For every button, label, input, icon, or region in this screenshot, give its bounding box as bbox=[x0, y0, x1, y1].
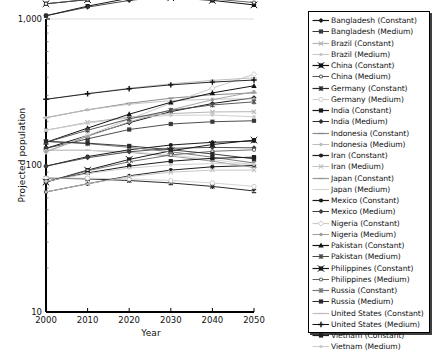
legend-item[interactable]: Japan (Constant) bbox=[311, 173, 427, 184]
legend-item[interactable]: Nigeria (Constant) bbox=[311, 218, 427, 229]
plot-area: Projected population Year 101001,0002000… bbox=[0, 0, 270, 344]
data-series bbox=[43, 145, 256, 169]
legend-marker-icon bbox=[311, 49, 331, 60]
legend-item[interactable]: Brazil (Constant) bbox=[311, 38, 427, 49]
data-series bbox=[43, 77, 256, 102]
x-tick-label: 2050 bbox=[234, 315, 274, 325]
x-tick-label: 2010 bbox=[68, 315, 108, 325]
legend-label: United States (Medium) bbox=[331, 319, 420, 330]
x-tick-label: 2020 bbox=[109, 315, 149, 325]
data-series bbox=[44, 0, 256, 18]
legend-item[interactable]: Nigeria (Medium) bbox=[311, 229, 427, 240]
legend-item[interactable]: Iran (Medium) bbox=[311, 161, 427, 172]
legend-item[interactable]: United States (Constant) bbox=[311, 308, 427, 319]
legend-marker-icon bbox=[311, 71, 331, 82]
legend-label: Russia (Constant) bbox=[331, 285, 397, 296]
legend-item[interactable]: Philippines (Medium) bbox=[311, 274, 427, 285]
legend-marker-icon bbox=[311, 38, 331, 49]
legend-label: Indonesia (Constant) bbox=[331, 128, 409, 139]
legend-label: India (Constant) bbox=[331, 105, 391, 116]
legend-marker-icon bbox=[311, 83, 331, 94]
legend-marker-icon bbox=[311, 285, 331, 296]
legend-label: Germany (Constant) bbox=[331, 83, 407, 94]
legend-item[interactable]: Japan (Medium) bbox=[311, 184, 427, 195]
legend-item[interactable]: Bangladesh (Medium) bbox=[311, 26, 427, 37]
legend-label: Russia (Medium) bbox=[331, 296, 393, 307]
legend-item[interactable]: India (Constant) bbox=[311, 105, 427, 116]
y-axis-title: Projected population bbox=[17, 95, 27, 215]
data-series bbox=[43, 93, 256, 118]
legend-marker-icon bbox=[311, 60, 331, 71]
legend-marker-icon bbox=[311, 308, 331, 319]
legend-marker-icon bbox=[311, 161, 331, 172]
legend-label: Iran (Medium) bbox=[331, 161, 384, 172]
legend-item[interactable]: Brazil (Medium) bbox=[311, 49, 427, 60]
legend-item[interactable]: China (Medium) bbox=[311, 71, 427, 82]
legend-item[interactable]: Mexico (Medium) bbox=[311, 206, 427, 217]
legend-item[interactable]: Bangladesh (Constant) bbox=[311, 15, 427, 26]
legend-marker-icon bbox=[311, 128, 331, 139]
data-series bbox=[44, 0, 256, 6]
legend-item[interactable]: Indonesia (Constant) bbox=[311, 128, 427, 139]
legend-item[interactable]: India (Medium) bbox=[311, 116, 427, 127]
legend-label: Iran (Constant) bbox=[331, 150, 388, 161]
legend-marker-icon bbox=[311, 195, 331, 206]
legend-marker-icon bbox=[311, 296, 331, 307]
data-series bbox=[43, 78, 256, 100]
x-axis-title: Year bbox=[46, 328, 256, 338]
legend-label: Vietnam (Medium) bbox=[331, 341, 401, 352]
legend-label: China (Medium) bbox=[331, 71, 391, 82]
legend-item[interactable]: United States (Medium) bbox=[311, 319, 427, 330]
legend-item[interactable]: Germany (Constant) bbox=[311, 83, 427, 94]
legend-label: Indonesia (Medium) bbox=[331, 139, 406, 150]
legend-marker-icon bbox=[311, 251, 331, 262]
legend-item[interactable]: Russia (Medium) bbox=[311, 296, 427, 307]
legend-label: Bangladesh (Constant) bbox=[331, 15, 417, 26]
legend-box: Bangladesh (Constant)Bangladesh (Medium)… bbox=[308, 11, 430, 333]
legend-marker-icon bbox=[311, 240, 331, 251]
legend-marker-icon bbox=[311, 229, 331, 240]
legend-item[interactable]: Indonesia (Medium) bbox=[311, 139, 427, 150]
legend-item[interactable]: Mexico (Constant) bbox=[311, 195, 427, 206]
legend-marker-icon bbox=[311, 218, 331, 229]
legend-label: Mexico (Medium) bbox=[331, 206, 395, 217]
x-tick-label: 2040 bbox=[192, 315, 232, 325]
data-series bbox=[43, 83, 256, 145]
legend-marker-icon bbox=[311, 341, 331, 352]
legend-marker-icon bbox=[311, 330, 331, 341]
legend-item[interactable]: Pakistan (Constant) bbox=[311, 240, 427, 251]
legend-label: Japan (Medium) bbox=[331, 184, 390, 195]
legend-item[interactable]: Germany (Medium) bbox=[311, 94, 427, 105]
legend-label: Mexico (Constant) bbox=[331, 195, 399, 206]
legend-label: Pakistan (Constant) bbox=[331, 240, 404, 251]
legend-marker-icon bbox=[311, 319, 331, 330]
legend-label: Brazil (Constant) bbox=[331, 38, 394, 49]
legend-item[interactable]: Vietnam (Medium) bbox=[311, 341, 427, 352]
legend-marker-icon bbox=[311, 105, 331, 116]
data-series bbox=[43, 0, 256, 18]
legend-label: Philippines (Constant) bbox=[331, 263, 413, 274]
legend-label: Bangladesh (Medium) bbox=[331, 26, 413, 37]
legend-marker-icon bbox=[311, 263, 331, 274]
legend-item[interactable]: Vietnam (Constant) bbox=[311, 330, 427, 341]
legend-item[interactable]: Philippines (Constant) bbox=[311, 263, 427, 274]
x-tick-label: 2000 bbox=[26, 315, 66, 325]
legend-label: Japan (Constant) bbox=[331, 173, 394, 184]
legend-marker-icon bbox=[311, 206, 331, 217]
data-series bbox=[44, 99, 256, 145]
legend-marker-icon bbox=[311, 274, 331, 285]
legend-marker-icon bbox=[311, 173, 331, 184]
legend-label: Philippines (Medium) bbox=[331, 274, 410, 285]
y-tick-label: 1,000 bbox=[8, 14, 42, 24]
legend-item[interactable]: Iran (Constant) bbox=[311, 150, 427, 161]
legend-marker-icon bbox=[311, 26, 331, 37]
legend-label: China (Constant) bbox=[331, 60, 394, 71]
legend-label: Vietnam (Constant) bbox=[331, 330, 404, 341]
data-series bbox=[44, 168, 256, 194]
legend-item[interactable]: China (Constant) bbox=[311, 60, 427, 71]
legend-marker-icon bbox=[311, 116, 331, 127]
legend-item[interactable]: Russia (Constant) bbox=[311, 285, 427, 296]
legend-item[interactable]: Pakistan (Medium) bbox=[311, 251, 427, 262]
data-series bbox=[44, 110, 256, 133]
